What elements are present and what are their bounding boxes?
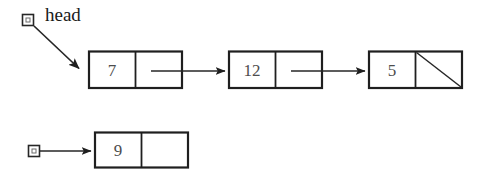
unlabeled-pointer-square-inner xyxy=(32,149,36,153)
list-node-5: 5 xyxy=(369,52,462,89)
node-5-value: 5 xyxy=(388,61,397,80)
diagram-canvas: head 7 12 5 xyxy=(0,0,481,179)
node-12-value: 12 xyxy=(244,61,261,80)
list-node-7: 7 xyxy=(89,52,182,89)
node-7-value: 7 xyxy=(108,61,117,80)
node-9-value: 9 xyxy=(114,141,123,160)
list-node-12: 12 xyxy=(229,52,322,89)
head-label: head xyxy=(45,4,81,25)
list-node-9: 9 xyxy=(95,133,188,168)
head-to-node7-arrow xyxy=(34,26,79,69)
linked-list-diagram: head 7 12 5 xyxy=(0,0,481,179)
head-pointer-square-inner xyxy=(26,18,30,22)
